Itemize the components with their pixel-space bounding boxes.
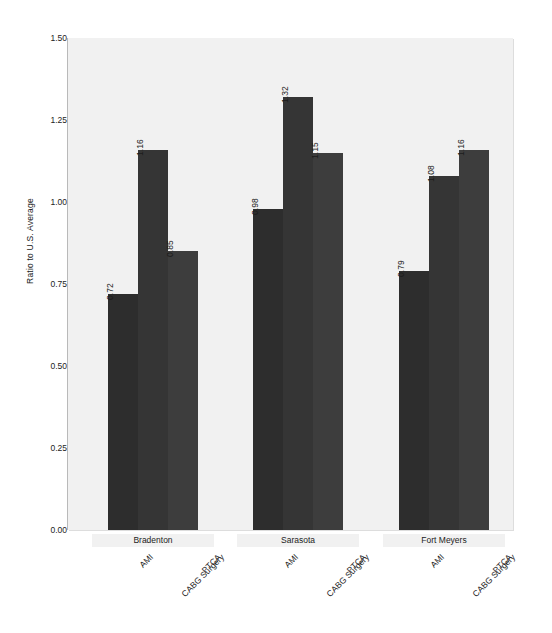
bar[interactable] — [399, 271, 429, 530]
plot-area: 0.721.160.850.981.321.150.791.081.16 — [68, 38, 513, 530]
y-tick-label: 0.50 — [27, 361, 67, 371]
bar-value-label: 1.08 — [426, 165, 436, 182]
y-tick-label: 0.75 — [27, 279, 67, 289]
y-tick-label: 0.25 — [27, 443, 67, 453]
y-axis-tick-labels: 0.000.250.500.751.001.251.50 — [20, 38, 67, 530]
bar-value-label: 0.72 — [105, 283, 115, 300]
group-name-label: Bradenton — [92, 534, 214, 547]
category-label: AMI — [282, 552, 300, 570]
bar[interactable] — [313, 153, 343, 530]
bar-value-label: 1.16 — [456, 139, 466, 156]
bar-value-label: 1.15 — [310, 142, 320, 159]
bar-group: 0.791.081.16 — [399, 38, 489, 530]
bar[interactable] — [253, 209, 283, 530]
y-tick-label: 0.00 — [27, 525, 67, 535]
bar-value-label: 1.32 — [280, 86, 290, 103]
bar[interactable] — [283, 97, 313, 530]
bar-chart: Ratio to U.S. Average 0.000.250.500.751.… — [0, 0, 552, 633]
group-name-label: Fort Meyers — [383, 534, 505, 547]
category-label: AMI — [428, 552, 446, 570]
y-tick-label: 1.00 — [27, 197, 67, 207]
bar-value-label: 1.16 — [135, 139, 145, 156]
bar-group: 0.981.321.15 — [253, 38, 343, 530]
group-name-label: Sarasota — [237, 534, 359, 547]
y-tick-label: 1.50 — [27, 33, 67, 43]
bar-value-label: 0.79 — [396, 260, 406, 277]
category-label: AMI — [137, 552, 155, 570]
bar[interactable] — [459, 150, 489, 530]
y-tick-label: 1.25 — [27, 115, 67, 125]
bar[interactable] — [168, 251, 198, 530]
bar-value-label: 0.85 — [165, 240, 175, 257]
bar-value-label: 0.98 — [250, 198, 260, 215]
bar[interactable] — [108, 294, 138, 530]
bar-group: 0.721.160.85 — [108, 38, 198, 530]
bar[interactable] — [429, 176, 459, 530]
bar[interactable] — [138, 150, 168, 530]
